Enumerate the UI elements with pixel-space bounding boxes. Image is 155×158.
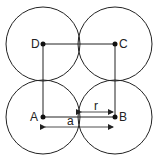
label-d-point: D — [31, 37, 40, 51]
point-a-dot — [41, 115, 46, 120]
label-a-point: A — [30, 110, 38, 124]
label-lattice-constant: a — [67, 114, 74, 128]
point-d-dot — [41, 42, 46, 47]
label-b-point: B — [119, 110, 127, 124]
lattice-diagram: A B C D r a — [0, 0, 155, 158]
point-b-dot — [113, 115, 118, 120]
point-c-dot — [113, 42, 118, 47]
label-radius: r — [94, 99, 98, 113]
label-c-point: C — [119, 37, 128, 51]
